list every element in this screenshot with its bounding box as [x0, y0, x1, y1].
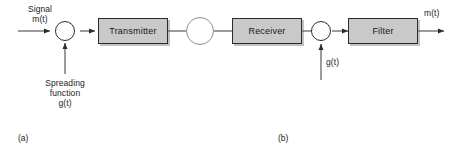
spread-multiplier-node — [55, 21, 75, 41]
spreading-function-label-line2: function — [31, 88, 99, 98]
filter-block: Filter — [348, 18, 418, 44]
despread-multiplier-node — [311, 21, 331, 41]
transmitter-block: Transmitter — [98, 18, 168, 44]
filter-block-label: Filter — [372, 26, 393, 36]
input-signal-label-line2: m(t) — [14, 14, 66, 24]
spreading-function-label: Spreading function g(t) — [31, 78, 99, 108]
receiver-block: Receiver — [232, 18, 302, 44]
channel-node — [186, 17, 214, 45]
output-signal-label: m(t) — [424, 8, 440, 18]
block-diagram-figure: Transmitter Receiver Filter Signal m(t) … — [0, 0, 464, 156]
caption-b: (b) — [278, 133, 288, 143]
input-signal-label-line1: Signal — [14, 4, 66, 14]
receiver-block-label: Receiver — [248, 26, 285, 36]
input-signal-label: Signal m(t) — [14, 4, 66, 24]
despreading-function-label: g(t) — [326, 57, 339, 67]
transmitter-block-label: Transmitter — [109, 26, 156, 36]
spreading-function-label-line1: Spreading — [31, 78, 99, 88]
caption-a: (a) — [18, 133, 28, 143]
spreading-function-label-line3: g(t) — [31, 98, 99, 108]
